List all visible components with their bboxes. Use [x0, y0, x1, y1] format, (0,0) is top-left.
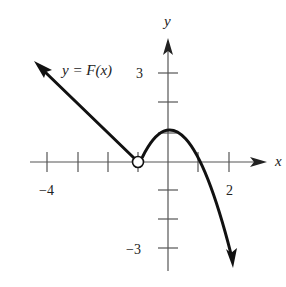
- y-tick-label--3: −3: [126, 242, 141, 257]
- right-piece: [143, 130, 238, 268]
- x-axis-label: x: [274, 153, 282, 169]
- y-axis-label: y: [162, 13, 171, 29]
- y-axis: [158, 38, 178, 271]
- parabola-curve: [143, 130, 232, 254]
- x-tick-label--4: −4: [39, 183, 54, 198]
- function-graph: x y −4 2 3 −3 y = F(x): [0, 0, 286, 287]
- left-line: [44, 71, 134, 158]
- x-axis: [30, 152, 267, 172]
- x-tick-label-2: 2: [226, 183, 233, 198]
- function-label: y = F(x): [60, 62, 112, 79]
- open-circle-endpoint: [133, 157, 144, 168]
- y-tick-label-3: 3: [136, 66, 143, 81]
